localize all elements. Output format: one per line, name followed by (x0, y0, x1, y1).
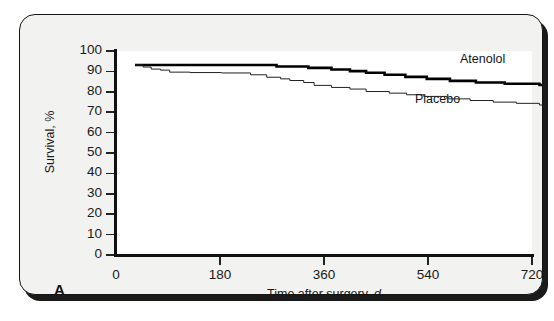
y-tick-label: 20 (68, 205, 102, 220)
x-tick-label: 360 (294, 267, 354, 282)
figure-root: 0102030405060708090100 0180360540720 Tim… (0, 0, 554, 321)
y-tick-mark (106, 152, 114, 154)
y-axis-title: Survival, % (43, 82, 57, 202)
y-tick-label: 30 (68, 185, 102, 200)
figure-panel: 0102030405060708090100 0180360540720 Tim… (19, 14, 543, 295)
y-tick-label: 90 (68, 62, 102, 77)
y-tick-mark (106, 213, 114, 215)
y-tick-mark (106, 71, 114, 73)
y-tick-label: 10 (68, 226, 102, 241)
plot-area (116, 51, 532, 255)
x-tick-mark (219, 257, 221, 265)
x-axis-title-text: Time after surgery, (267, 287, 371, 295)
y-tick-label: 80 (68, 83, 102, 98)
panel-letter: A (54, 281, 65, 295)
x-tick-label: 720 (502, 267, 543, 282)
y-tick-mark (106, 173, 114, 175)
x-tick-label: 540 (398, 267, 458, 282)
x-tick-mark (427, 257, 429, 265)
y-tick-label: 60 (68, 124, 102, 139)
x-axis-title: Time after surgery, d (116, 287, 532, 295)
y-tick-label: 0 (68, 246, 102, 261)
y-axis-line (114, 49, 117, 257)
x-axis-title-unit: d (374, 287, 381, 295)
series-label-placebo: Placebo (415, 92, 460, 106)
y-tick-mark (106, 50, 114, 52)
y-tick-label: 70 (68, 103, 102, 118)
y-tick-mark (106, 193, 114, 195)
x-tick-label: 180 (190, 267, 250, 282)
y-tick-mark (106, 234, 114, 236)
series-label-atenolol: Atenolol (460, 52, 505, 66)
y-tick-mark (106, 111, 114, 113)
y-tick-mark (106, 132, 114, 134)
y-tick-label: 50 (68, 144, 102, 159)
y-tick-label: 40 (68, 164, 102, 179)
x-tick-label: 0 (86, 267, 146, 282)
x-tick-mark (323, 257, 325, 265)
y-tick-mark (106, 254, 114, 256)
y-tick-mark (106, 91, 114, 93)
y-tick-label: 100 (68, 42, 102, 57)
x-tick-mark (531, 257, 533, 265)
